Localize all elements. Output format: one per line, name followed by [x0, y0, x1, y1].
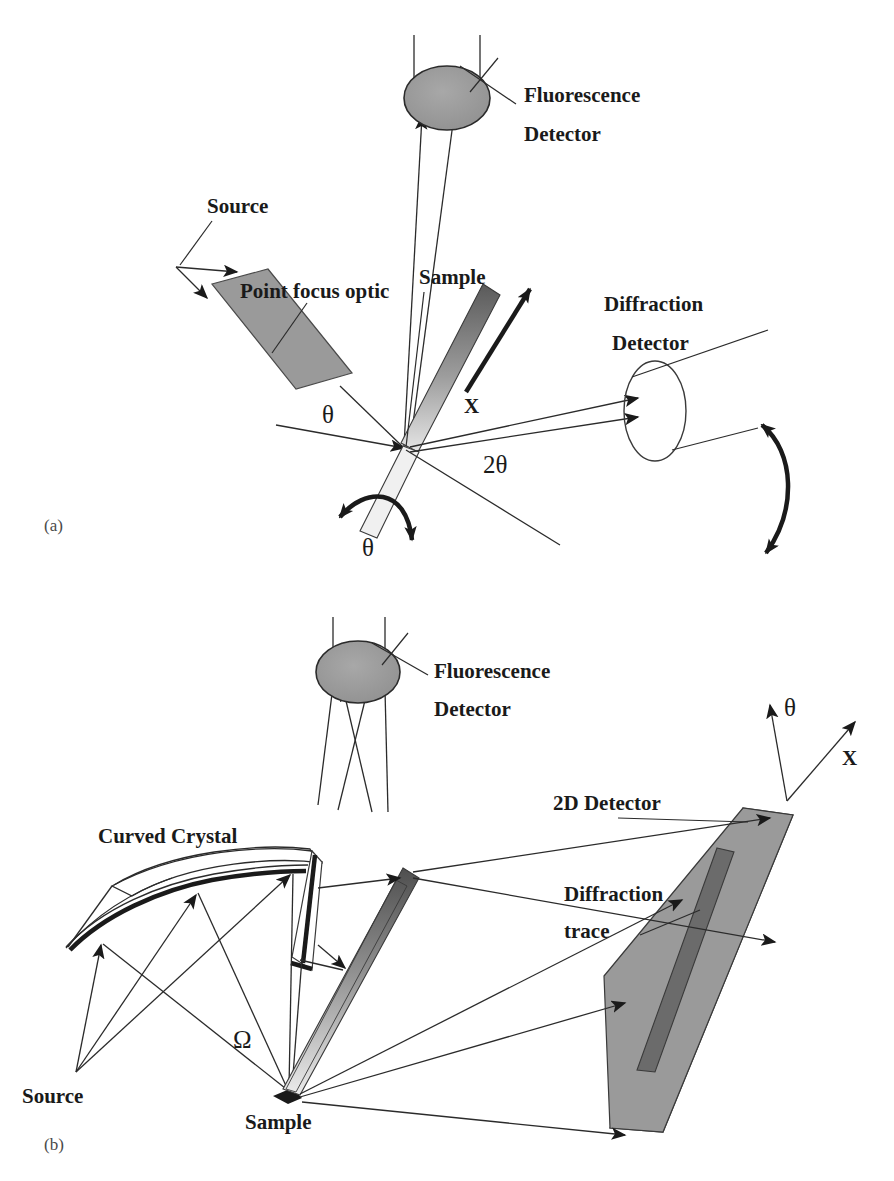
- theta-axis-label-b: θ: [784, 694, 796, 721]
- figure-page: Fluorescence Detector Source Point focus…: [0, 0, 894, 1181]
- diffraction-detector-label-a: Diffraction: [604, 292, 703, 316]
- fluorescence-detector-label-b-2: Detector: [434, 697, 511, 721]
- theta-incident-label-a: θ: [322, 401, 334, 428]
- two-d-detector-label-b: 2D Detector: [553, 791, 661, 815]
- point-focus-optic-label-a: Point focus optic: [240, 279, 389, 303]
- panel-b-caption: (b): [44, 1135, 64, 1154]
- source-label-b: Source: [22, 1084, 83, 1108]
- theta-rotation-label-a: θ: [362, 534, 374, 561]
- fluorescence-detector-b: [316, 641, 400, 703]
- xrd-geometry-figure: Fluorescence Detector Source Point focus…: [0, 0, 894, 1181]
- sample-a: [401, 284, 500, 452]
- panel-a: Fluorescence Detector Source Point focus…: [44, 35, 788, 561]
- fluorescence-detector-label-a: Fluorescence: [524, 83, 640, 107]
- source-label-leader-a: [180, 221, 212, 265]
- curved-crystal-b: [66, 847, 322, 970]
- beam-to-sample-top-b: [318, 878, 400, 888]
- detector-arm-leader-a: [672, 428, 758, 450]
- fluorescence-detector-label-a-2: Detector: [524, 122, 601, 146]
- two-theta-label-a: 2θ: [483, 451, 507, 478]
- two-d-detector-b: [604, 808, 793, 1132]
- two-theta-rotation-arc-a: [762, 425, 788, 553]
- theta-baseline-a: [276, 425, 404, 448]
- diffraction-detector-label-a-2: Detector: [612, 331, 689, 355]
- diffraction-trace-label-b-2: trace: [564, 919, 609, 943]
- curved-crystal-label-b: Curved Crystal: [98, 824, 238, 848]
- two-d-detector-leader-b: [618, 818, 748, 822]
- x-axis-label-b: X: [842, 746, 857, 770]
- panel-b: Fluorescence Detector Curved Crystal Sou…: [22, 617, 857, 1154]
- sample-label-b: Sample: [245, 1110, 312, 1134]
- panel-a-caption: (a): [44, 516, 63, 535]
- fluorescence-detector-a: [404, 66, 490, 130]
- omega-label-b: Ω: [233, 1026, 252, 1053]
- sample-label-a: Sample: [419, 265, 486, 289]
- source-label-a: Source: [207, 194, 268, 218]
- diffraction-trace-label-b: Diffraction: [564, 882, 663, 906]
- diffracted-beams-a: [410, 398, 638, 452]
- source-rays-b: [76, 875, 290, 1072]
- x-axis-label-a: X: [464, 394, 479, 418]
- fluorescence-detector-label-b: Fluorescence: [434, 659, 550, 683]
